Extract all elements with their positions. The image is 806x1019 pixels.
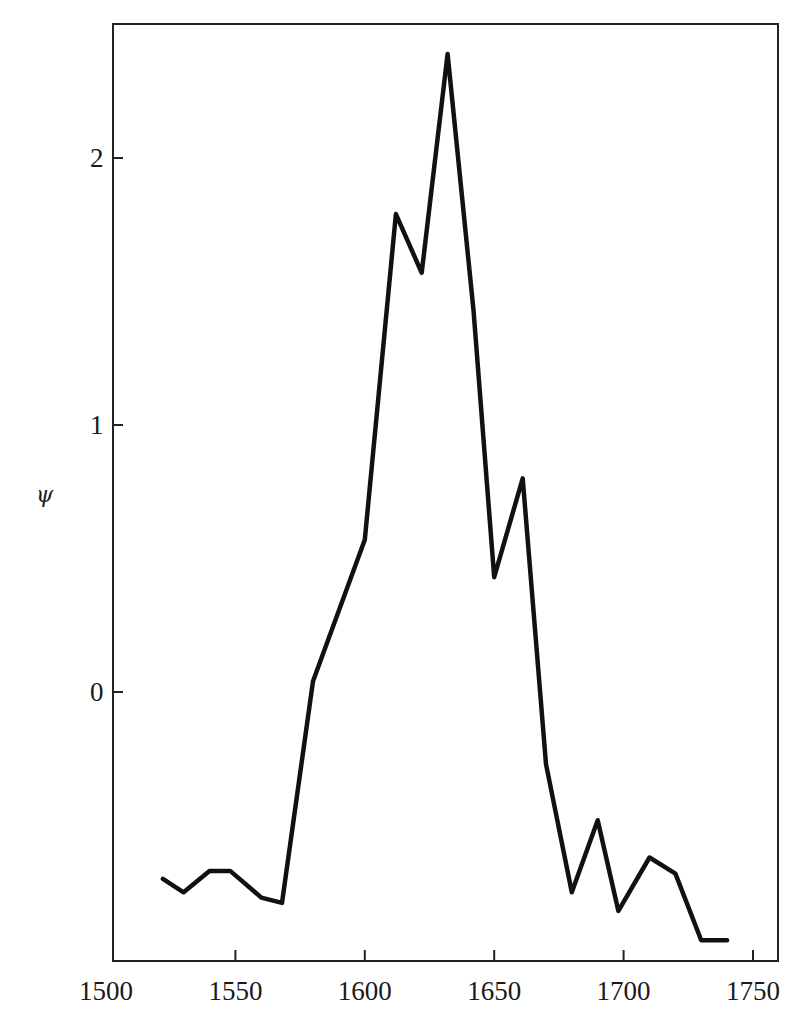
x-axis-ticks: 150015501600165017001750 [79, 950, 780, 1006]
x-tick-label: 1500 [79, 976, 133, 1006]
psi-series-line [163, 54, 727, 940]
plot-frame [113, 24, 778, 961]
y-tick-label: 2 [90, 143, 104, 173]
x-tick-label: 1700 [597, 976, 651, 1006]
y-tick-label: 1 [90, 410, 104, 440]
x-tick-label: 1750 [726, 976, 780, 1006]
y-axis-ticks: 012 [90, 143, 123, 707]
x-tick-label: 1550 [208, 976, 262, 1006]
y-axis-label: ψ [36, 482, 54, 507]
y-tick-label: 0 [90, 677, 104, 707]
line-chart: 012 150015501600165017001750 ψ [0, 0, 806, 1019]
x-tick-label: 1600 [338, 976, 392, 1006]
x-tick-label: 1650 [467, 976, 521, 1006]
